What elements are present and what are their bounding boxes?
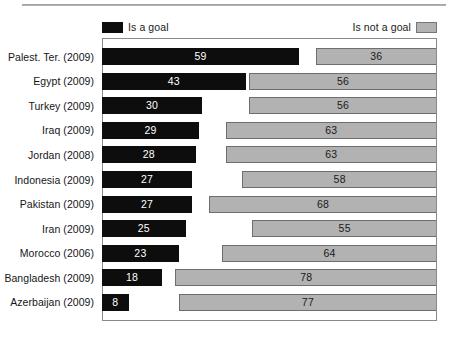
bar-segment-is-not-a-goal: 63 — [226, 146, 436, 163]
bar-segment-is-a-goal: 18 — [102, 269, 162, 286]
bar-value-is-a-goal: 8 — [112, 297, 118, 308]
bar-value-is-not-a-goal: 63 — [325, 149, 337, 160]
bar-track: 2768 — [102, 196, 436, 213]
bar-segment-is-a-goal: 23 — [102, 245, 179, 262]
bar-track: 2555 — [102, 220, 436, 237]
bar-segment-is-not-a-goal: 64 — [222, 245, 436, 262]
bar-row: 4356 — [102, 69, 436, 94]
category-label: Indonesia (2009) — [14, 174, 94, 186]
legend-swatch-is-not-a-goal — [416, 22, 437, 33]
category-label-row: Iraq (2009) — [0, 118, 98, 143]
bar-segment-is-not-a-goal: 36 — [316, 48, 436, 65]
header-divider — [22, 4, 446, 6]
legend-item-is-not-a-goal: Is not a goal — [352, 21, 437, 33]
bar-value-is-not-a-goal: 55 — [339, 223, 351, 234]
bar-segment-is-a-goal: 30 — [102, 97, 202, 114]
bar-value-is-a-goal: 18 — [126, 272, 138, 283]
category-label: Turkey (2009) — [28, 100, 94, 112]
category-label: Pakistan (2009) — [20, 198, 94, 210]
bar-segment-is-a-goal: 28 — [102, 146, 196, 163]
legend-label-is-not-a-goal: Is not a goal — [352, 21, 411, 33]
category-label-row: Indonesia (2009) — [0, 167, 98, 192]
bar-segment-is-a-goal: 29 — [102, 122, 199, 139]
category-label-row: Egypt (2009) — [0, 69, 98, 94]
category-label: Morocco (2006) — [20, 247, 94, 259]
bar-row: 877 — [102, 290, 436, 315]
category-label-row: Azerbaijan (2009) — [0, 290, 98, 315]
bar-row: 2863 — [102, 143, 436, 168]
bar-segment-is-a-goal: 8 — [102, 294, 129, 311]
category-label-row: Morocco (2006) — [0, 241, 98, 266]
bar-segment-is-not-a-goal: 56 — [249, 73, 436, 90]
bar-value-is-not-a-goal: 56 — [337, 76, 349, 87]
category-label-row: Jordan (2008) — [0, 143, 98, 168]
bar-value-is-a-goal: 59 — [194, 51, 206, 62]
bar-value-is-not-a-goal: 56 — [337, 100, 349, 111]
bar-segment-is-not-a-goal: 77 — [179, 294, 436, 311]
category-label: Jordan (2008) — [28, 149, 94, 161]
legend-item-is-a-goal: Is a goal — [102, 21, 169, 33]
bar-segment-is-a-goal: 27 — [102, 196, 192, 213]
bar-value-is-not-a-goal: 77 — [302, 297, 314, 308]
bar-row: 2963 — [102, 118, 436, 143]
bar-segment-is-a-goal: 25 — [102, 220, 186, 237]
bar-segment-is-a-goal: 59 — [102, 48, 299, 65]
chart-figure: Is a goal Is not a goal Palest. Ter. (20… — [0, 0, 454, 337]
legend-swatch-is-a-goal — [102, 22, 123, 33]
bar-value-is-a-goal: 28 — [143, 149, 155, 160]
category-label: Iran (2009) — [42, 223, 94, 235]
bar-segment-is-not-a-goal: 68 — [209, 196, 436, 213]
category-axis: Palest. Ter. (2009)Egypt (2009)Turkey (2… — [0, 39, 98, 320]
category-label: Palest. Ter. (2009) — [8, 51, 94, 63]
bar-segment-is-not-a-goal: 78 — [175, 269, 436, 286]
bar-value-is-a-goal: 27 — [141, 174, 153, 185]
category-label-row: Turkey (2009) — [0, 93, 98, 118]
chart-legend: Is a goal Is not a goal — [102, 21, 437, 35]
bar-value-is-not-a-goal: 63 — [325, 125, 337, 136]
bar-value-is-not-a-goal: 58 — [334, 174, 346, 185]
bar-track: 1878 — [102, 269, 436, 286]
bar-track: 2758 — [102, 171, 436, 188]
bar-value-is-a-goal: 29 — [144, 125, 156, 136]
bar-row: 2555 — [102, 216, 436, 241]
bar-value-is-a-goal: 25 — [138, 223, 150, 234]
bar-row: 5936 — [102, 44, 436, 69]
bar-segment-is-a-goal: 43 — [102, 73, 246, 90]
bar-segment-is-not-a-goal: 55 — [252, 220, 436, 237]
bar-track: 5936 — [102, 48, 436, 65]
bar-track: 4356 — [102, 73, 436, 90]
bar-row: 2758 — [102, 167, 436, 192]
legend-label-is-a-goal: Is a goal — [128, 21, 169, 33]
bar-row: 3056 — [102, 93, 436, 118]
bar-segment-is-a-goal: 27 — [102, 171, 192, 188]
bar-track: 2963 — [102, 122, 436, 139]
bar-value-is-a-goal: 27 — [141, 199, 153, 210]
bar-track: 877 — [102, 294, 436, 311]
bar-value-is-a-goal: 43 — [168, 76, 180, 87]
bar-value-is-a-goal: 23 — [134, 248, 146, 259]
bar-value-is-not-a-goal: 64 — [324, 248, 336, 259]
bar-value-is-not-a-goal: 68 — [317, 199, 329, 210]
category-label-row: Palest. Ter. (2009) — [0, 44, 98, 69]
bar-row: 2364 — [102, 241, 436, 266]
bar-value-is-not-a-goal: 78 — [300, 272, 312, 283]
bar-value-is-not-a-goal: 36 — [370, 51, 382, 62]
category-label: Azerbaijan (2009) — [10, 296, 94, 308]
bar-track: 2863 — [102, 146, 436, 163]
category-label: Iraq (2009) — [42, 124, 94, 136]
bar-row: 2768 — [102, 192, 436, 217]
bar-track: 3056 — [102, 97, 436, 114]
bar-track: 2364 — [102, 245, 436, 262]
category-label-row: Iran (2009) — [0, 216, 98, 241]
category-label-row: Pakistan (2009) — [0, 192, 98, 217]
category-label: Egypt (2009) — [33, 75, 94, 87]
bar-segment-is-not-a-goal: 63 — [226, 122, 436, 139]
bar-rows: 5936435630562963286327582768255523641878… — [102, 39, 436, 320]
category-label: Bangladesh (2009) — [4, 272, 94, 284]
bar-segment-is-not-a-goal: 56 — [249, 97, 436, 114]
bar-segment-is-not-a-goal: 58 — [242, 171, 436, 188]
bar-value-is-a-goal: 30 — [146, 100, 158, 111]
bar-row: 1878 — [102, 266, 436, 291]
category-label-row: Bangladesh (2009) — [0, 266, 98, 291]
